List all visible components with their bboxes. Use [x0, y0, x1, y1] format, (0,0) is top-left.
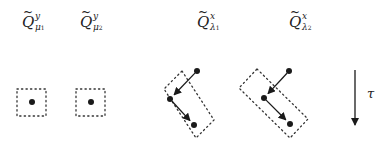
site-dot	[29, 99, 35, 105]
site-dot	[191, 122, 197, 128]
site-dot	[286, 68, 292, 74]
tilted-group-2	[239, 68, 308, 138]
site-dot	[261, 95, 267, 101]
square-box-2	[76, 89, 105, 116]
site-dot	[88, 99, 94, 105]
arrow	[268, 73, 287, 93]
label-q-x-lambda1: ~Q x λ1	[197, 14, 209, 30]
square-box-1	[17, 89, 46, 116]
site-dot	[287, 121, 293, 127]
diagram-canvas	[0, 0, 392, 164]
tilted-group-1	[164, 68, 214, 138]
label-q-x-lambda2: ~Q x λ2	[289, 14, 301, 30]
arrow	[172, 101, 190, 120]
site-dot	[194, 68, 200, 74]
site-dot	[167, 96, 173, 102]
label-q-y-mu2: ~Q y μ2	[80, 14, 92, 30]
square-boxes	[17, 89, 105, 116]
label-q-y-mu1: ~Q y μ1	[22, 14, 34, 30]
tau-label: τ	[367, 86, 374, 101]
arrow	[174, 73, 195, 95]
tilted-groups	[164, 68, 308, 138]
